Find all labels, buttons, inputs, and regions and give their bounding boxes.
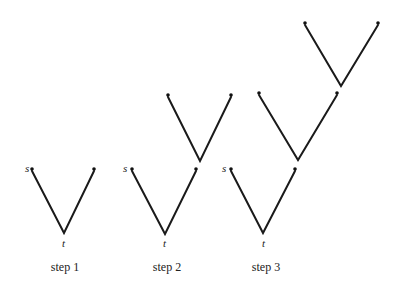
step-2-label: step 2 bbox=[153, 260, 181, 274]
left-vertex-dot bbox=[229, 167, 233, 171]
left-vertex-dot bbox=[257, 91, 261, 95]
right-vertex-dot bbox=[194, 167, 198, 171]
right-vertex-dot bbox=[229, 93, 233, 97]
step-1-label: step 1 bbox=[51, 260, 79, 274]
left-vertex-dot bbox=[303, 21, 307, 25]
source-label-step-2: s bbox=[123, 162, 127, 174]
source-label-step-3: s bbox=[222, 162, 226, 174]
sink-label-step-1: t bbox=[62, 237, 66, 249]
right-vertex-dot bbox=[335, 91, 339, 95]
v-edge bbox=[32, 171, 94, 233]
tree-diagram: step 1 step 2 step 3 s s s t t t bbox=[0, 0, 397, 291]
v-edge bbox=[305, 25, 378, 86]
right-vertex-dot bbox=[376, 21, 380, 25]
panel-step-1 bbox=[30, 167, 96, 233]
left-vertex-dot bbox=[30, 167, 34, 171]
step-3-label: step 3 bbox=[252, 260, 280, 274]
v-edge bbox=[231, 171, 295, 233]
left-vertex-dot bbox=[130, 167, 134, 171]
right-vertex-dot bbox=[293, 167, 297, 171]
source-label-step-1: s bbox=[25, 162, 29, 174]
v-edge bbox=[132, 171, 196, 234]
left-vertex-dot bbox=[166, 93, 170, 97]
right-vertex-dot bbox=[92, 167, 96, 171]
panel-step-3 bbox=[229, 21, 380, 233]
sink-label-step-3: t bbox=[262, 237, 266, 249]
panel-step-2 bbox=[130, 93, 233, 234]
v-edge bbox=[168, 97, 231, 161]
sink-label-step-2: t bbox=[163, 237, 167, 249]
v-edge bbox=[259, 95, 337, 160]
